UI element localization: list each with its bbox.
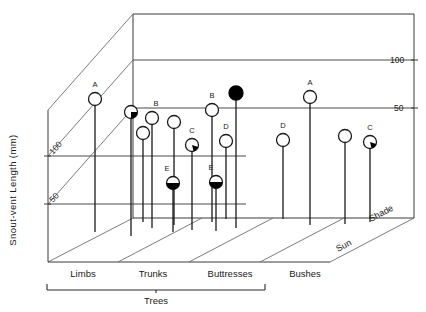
point-label: D: [223, 122, 229, 131]
marker-open-circle[interactable]: [304, 91, 317, 104]
marker-open-circle[interactable]: [89, 93, 102, 106]
marker-open-circle[interactable]: [277, 134, 290, 147]
point-label: B: [209, 91, 214, 100]
marker-open-circle[interactable]: [220, 135, 233, 148]
category-label-buttresses: Buttresses: [208, 268, 253, 279]
category-label-limbs: Limbs: [70, 268, 96, 279]
x-category-labels: Limbs Trunks Buttresses Bushes: [70, 268, 321, 279]
point-label: E: [208, 163, 213, 172]
data-point[interactable]: [229, 86, 243, 228]
gridline-depth-100: [48, 60, 133, 156]
right-tick-label-50: 50: [394, 103, 404, 113]
data-point[interactable]: [339, 130, 352, 225]
floor-left-depth-edge: [48, 218, 133, 262]
marker-open-circle[interactable]: [168, 116, 181, 129]
data-point[interactable]: C: [186, 126, 199, 230]
bracket-shape: [47, 284, 265, 293]
grid-planes: [48, 60, 414, 204]
data-points-layer: A B: [89, 78, 377, 236]
depth-label-shade: Shade: [367, 203, 395, 224]
category-label-bushes: Bushes: [289, 268, 321, 279]
point-label: C: [367, 123, 373, 132]
point-label: A: [92, 80, 97, 89]
point-label: B: [153, 99, 158, 108]
data-point[interactable]: D: [277, 121, 290, 219]
category-label-trunks: Trunks: [139, 268, 168, 279]
left-axis-ticks: 100 50: [44, 139, 64, 204]
marker-open-circle[interactable]: [339, 130, 352, 143]
depth-axis-labels: Sun Shade: [334, 203, 395, 254]
divider-trunks-buttresses: [189, 218, 273, 262]
group-label-trees: Trees: [144, 295, 168, 306]
point-label: A: [307, 78, 312, 87]
trees-group-bracket: Trees: [47, 284, 265, 306]
point-label: D: [280, 121, 286, 130]
divider-buttresses-bushes: [260, 218, 344, 262]
marker-fill-bottom-half: [167, 183, 180, 190]
marker-open-circle[interactable]: [137, 127, 150, 140]
point-label: E: [164, 164, 169, 173]
marker-fill-wedge: [131, 112, 138, 119]
data-point[interactable]: [137, 127, 150, 223]
data-point[interactable]: [125, 106, 138, 237]
marker-filled-circle[interactable]: [229, 86, 243, 100]
y-axis-title: Snout-vent Length (mm): [7, 134, 18, 245]
point-label: C: [189, 126, 195, 135]
data-point[interactable]: A: [304, 78, 317, 225]
figure-3d-scatter-plot: 100 50 100 50 A B: [0, 0, 426, 312]
marker-open-circle[interactable]: [206, 104, 219, 117]
right-tick-label-100: 100: [390, 55, 404, 65]
marker-open-circle[interactable]: [146, 112, 159, 125]
data-point[interactable]: E: [164, 164, 179, 232]
data-point[interactable]: B: [146, 99, 159, 228]
chart-canvas: 100 50 100 50 A B: [0, 0, 426, 312]
data-point[interactable]: C: [364, 123, 377, 222]
data-point[interactable]: E: [208, 163, 222, 231]
